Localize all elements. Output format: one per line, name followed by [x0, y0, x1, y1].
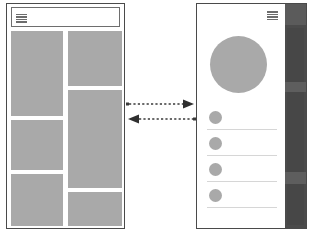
- hamburger-bar: [16, 19, 27, 21]
- list-item-avatar: [209, 189, 222, 202]
- list-item-avatar: [209, 111, 222, 124]
- list-item-divider: [207, 181, 277, 182]
- list-item[interactable]: [197, 160, 285, 186]
- mobile-wireframe-panel[interactable]: [196, 3, 307, 229]
- list-item[interactable]: [197, 186, 285, 212]
- hamburger-bar: [267, 19, 278, 21]
- hero-avatar[interactable]: [210, 36, 267, 93]
- arrow-to-right: [126, 100, 194, 109]
- desktop-content-grid: [11, 31, 120, 224]
- grid-block[interactable]: [68, 90, 122, 188]
- hamburger-bar: [267, 11, 278, 13]
- grid-block[interactable]: [68, 31, 122, 86]
- scroll-rail[interactable]: [285, 4, 306, 228]
- hamburger-menu-icon[interactable]: [16, 14, 27, 23]
- mobile-content-area: [197, 4, 285, 228]
- hamburger-bar: [16, 14, 27, 16]
- grid-block[interactable]: [11, 120, 63, 170]
- list-item-divider: [207, 207, 277, 208]
- list-item[interactable]: [197, 134, 285, 160]
- list-item-divider: [207, 129, 277, 130]
- diagram-canvas: [0, 0, 313, 234]
- grid-block[interactable]: [11, 31, 63, 116]
- scroll-rail-segment: [285, 4, 306, 25]
- list-item[interactable]: [197, 108, 285, 134]
- arrow-to-left: [128, 115, 196, 124]
- list-item-avatar: [209, 163, 222, 176]
- scroll-rail-segment: [285, 82, 306, 92]
- list-item-avatar: [209, 137, 222, 150]
- connector-arrows: [126, 94, 196, 130]
- scroll-rail-track: [287, 28, 304, 225]
- hamburger-bar: [267, 16, 278, 18]
- bidirectional-arrow-group: [126, 94, 196, 130]
- hamburger-menu-icon[interactable]: [267, 11, 278, 20]
- scroll-rail-segment: [285, 172, 306, 184]
- list-item-divider: [207, 155, 277, 156]
- mobile-list: [197, 108, 285, 212]
- grid-block[interactable]: [11, 174, 63, 226]
- hamburger-bar: [16, 21, 27, 23]
- hamburger-bar: [267, 14, 278, 16]
- desktop-header-bar[interactable]: [11, 7, 120, 27]
- grid-block[interactable]: [68, 192, 122, 226]
- hamburger-bar: [16, 16, 27, 18]
- desktop-wireframe-panel[interactable]: [6, 3, 125, 229]
